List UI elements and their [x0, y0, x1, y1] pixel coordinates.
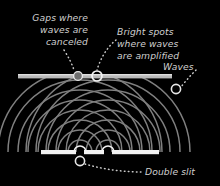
label-gaps-line-3: canceled [0, 36, 88, 48]
label-double-slit-line-1: Double slit [145, 166, 195, 178]
leader-double-slit [85, 164, 143, 172]
marker-slit[interactable] [75, 156, 84, 165]
label-gaps-where-waves-are-canceled: Gaps where waves are canceled [0, 12, 88, 48]
label-bright-line-2: where waves [117, 38, 179, 50]
label-gaps-line-1: Gaps where [0, 12, 88, 24]
label-gaps-line-2: waves are [0, 24, 88, 36]
leader-gaps [64, 50, 74, 70]
leader-bright [97, 40, 116, 70]
double-slit-barrier [41, 150, 159, 154]
label-double-slit: Double slit [145, 166, 195, 178]
wavefronts-left-source [0, 70, 162, 186]
detection-screen-bar [18, 74, 172, 78]
diagram-canvas: Gaps where waves are canceled Bright spo… [0, 0, 220, 186]
label-waves: Waves [163, 61, 194, 73]
marker-waves[interactable] [171, 84, 180, 93]
label-bright-line-1: Bright spots [117, 26, 179, 38]
marker-dark-fringe[interactable] [74, 72, 83, 81]
label-waves-line-1: Waves [163, 61, 194, 73]
label-bright-spots-where-waves-are-amplified: Bright spots where waves are amplified [117, 26, 179, 62]
